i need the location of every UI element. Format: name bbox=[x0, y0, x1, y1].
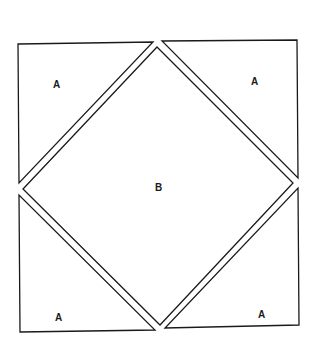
piece-label-bottom-right: A bbox=[258, 309, 265, 320]
quilt-block-diagram: A A B A A bbox=[0, 0, 318, 352]
piece-label-center: B bbox=[155, 182, 162, 193]
piece-label-top-left: A bbox=[53, 79, 60, 90]
piece-label-top-right: A bbox=[251, 76, 258, 87]
piece-label-bottom-left: A bbox=[55, 312, 62, 323]
